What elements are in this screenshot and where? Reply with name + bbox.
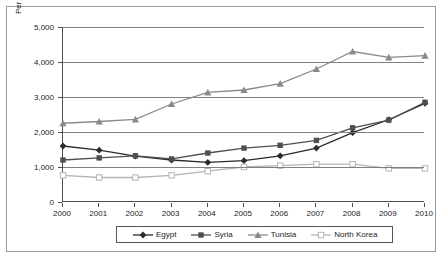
data-point <box>350 125 355 130</box>
x-tick-label: 2009 <box>379 209 397 218</box>
series-tunisia <box>59 48 428 126</box>
x-tick-mark <box>98 203 99 207</box>
data-point <box>422 100 427 105</box>
x-tick-mark <box>62 203 63 207</box>
y-tick-label: 4,000 <box>8 58 54 67</box>
x-tick-label: 2008 <box>343 209 361 218</box>
x-tick-label: 2007 <box>306 209 324 218</box>
data-point <box>97 155 102 160</box>
data-point <box>241 157 248 164</box>
x-tick-label: 2001 <box>89 209 107 218</box>
legend-entry-north-korea[interactable]: North Korea <box>310 230 377 240</box>
x-tick-mark <box>388 203 389 207</box>
x-tick-mark <box>279 203 280 207</box>
data-point <box>169 156 174 161</box>
legend-marker-square-icon <box>190 230 212 240</box>
legend-marker-triangle-icon <box>247 230 269 240</box>
plot-area <box>62 27 424 202</box>
x-tick-label: 2003 <box>162 209 180 218</box>
data-point <box>277 152 284 159</box>
x-tick-label: 2002 <box>125 209 143 218</box>
data-point <box>386 117 391 122</box>
data-point <box>205 169 210 174</box>
y-tick-label: 3,000 <box>8 93 54 102</box>
legend-marker-diamond-icon <box>132 230 154 240</box>
y-axis-title-wrap: Per capita GDP/GNI ($US) <box>14 27 26 202</box>
x-tick-mark <box>352 203 353 207</box>
legend-marker-open-square-icon <box>310 230 332 240</box>
x-tick-label: 2005 <box>234 209 252 218</box>
x-tick-label: 2006 <box>270 209 288 218</box>
gridline <box>63 132 424 133</box>
legend-entry-tunisia[interactable]: Tunisia <box>247 230 297 240</box>
chart-container: Per capita GDP/GNI ($US) 01,0002,0003,00… <box>0 0 444 259</box>
data-point <box>96 147 103 154</box>
legend-label: Tunisia <box>271 230 297 239</box>
x-axis: 2000200120022003200420052006200720082009… <box>62 203 424 219</box>
data-point <box>314 138 319 143</box>
legend-label: North Korea <box>334 230 377 239</box>
data-point <box>60 173 65 178</box>
y-tick-label: 2,000 <box>8 128 54 137</box>
x-tick-label: 2004 <box>198 209 216 218</box>
data-point <box>169 173 174 178</box>
legend-entry-egypt[interactable]: Egypt <box>132 230 176 240</box>
y-tick-label: 1,000 <box>8 163 54 172</box>
legend-entry-syria[interactable]: Syria <box>190 230 232 240</box>
data-point <box>278 143 283 148</box>
data-point <box>313 145 320 152</box>
x-tick-mark <box>171 203 172 207</box>
legend-label: Egypt <box>156 230 176 239</box>
x-tick-label: 2000 <box>53 209 71 218</box>
data-point <box>133 175 138 180</box>
x-tick-mark <box>424 203 425 207</box>
data-point <box>241 145 246 150</box>
x-tick-label: 2010 <box>415 209 433 218</box>
gridline <box>63 167 424 168</box>
gridline <box>63 97 424 98</box>
x-tick-mark <box>207 203 208 207</box>
data-point <box>133 153 138 158</box>
gridline <box>63 62 424 63</box>
y-tick-label: 5,000 <box>8 23 54 32</box>
chart-legend: EgyptSyriaTunisiaNorth Korea <box>116 226 393 243</box>
legend-label: Syria <box>214 230 232 239</box>
data-point <box>97 175 102 180</box>
x-tick-mark <box>243 203 244 207</box>
data-point <box>60 157 65 162</box>
gridline <box>63 27 424 28</box>
data-point <box>313 65 320 72</box>
series-north-korea <box>60 162 427 181</box>
data-point <box>205 150 210 155</box>
data-point <box>349 48 356 55</box>
data-point <box>204 159 211 166</box>
x-tick-mark <box>134 203 135 207</box>
x-tick-mark <box>315 203 316 207</box>
data-point <box>277 80 284 87</box>
y-tick-label: 0 <box>8 198 54 207</box>
series-layer <box>63 27 425 202</box>
